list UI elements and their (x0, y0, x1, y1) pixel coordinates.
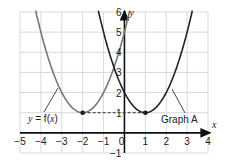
y-axis-label: y (128, 7, 134, 18)
y-tick-label: 4 (116, 47, 122, 58)
x-tick-label: 4 (205, 136, 211, 147)
y-tick-label: −1 (110, 148, 122, 159)
y-tick-label: 6 (116, 7, 122, 18)
tick-labels: −5−4−3−2−101234−1123456 (14, 7, 211, 159)
x-tick-label: −3 (56, 136, 68, 147)
y-tick-label: 2 (116, 88, 122, 99)
y-tick-label: 5 (116, 27, 122, 38)
x-tick-label: −4 (35, 136, 47, 147)
x-tick-label: 1 (143, 136, 149, 147)
y-tick-label: 3 (116, 67, 122, 78)
x-tick-label: 3 (184, 136, 190, 147)
pointer-fx (44, 88, 58, 112)
x-tick-label: 0 (119, 136, 125, 147)
x-tick-label: 2 (163, 136, 169, 147)
x-axis-label: x (211, 119, 217, 130)
label-graph-a: Graph A (161, 114, 198, 125)
grid (20, 12, 208, 153)
x-tick-label: −1 (98, 136, 110, 147)
x-tick-label: −2 (77, 136, 89, 147)
x-tick-label: −5 (14, 136, 26, 147)
graph-canvas: −5−4−3−2−101234−1123456 xyy = f(x)Graph … (0, 0, 225, 163)
curves (36, 11, 193, 115)
label-f-of-x: y = f(x) (27, 113, 58, 124)
